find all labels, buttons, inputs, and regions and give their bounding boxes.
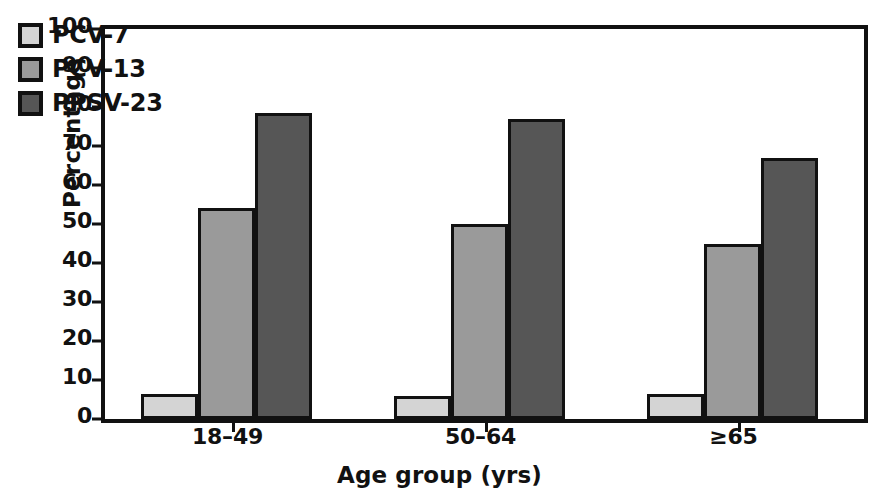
y-axis-tick-mark: [92, 379, 105, 382]
y-axis-tick-mark: [92, 223, 105, 226]
x-axis-title: Age group (yrs): [0, 462, 879, 488]
bar: [394, 396, 451, 419]
legend-label: PPSV-23: [52, 91, 163, 115]
bar: [704, 244, 761, 420]
y-axis-tick-label: 10: [38, 364, 92, 389]
y-axis-tick-label: 50: [38, 208, 92, 233]
y-axis-tick-mark: [92, 184, 105, 187]
x-axis-tick-label: 18–49: [192, 424, 263, 449]
y-axis-tick-label: 20: [38, 325, 92, 350]
y-axis-tick-label: 70: [38, 130, 92, 155]
bar: [451, 224, 508, 419]
plot-inner: [105, 29, 864, 419]
bar: [761, 158, 818, 419]
y-axis-tick-label: 30: [38, 286, 92, 311]
legend-swatch-icon: [18, 91, 43, 116]
x-axis-tick-label: 50–64: [445, 424, 516, 449]
y-axis-tick-label: 40: [38, 247, 92, 272]
y-axis-tick-mark: [92, 262, 105, 265]
y-axis-tick-mark: [92, 418, 105, 421]
bar: [198, 208, 255, 419]
y-axis-tick-mark: [92, 340, 105, 343]
bar: [508, 119, 565, 419]
bar: [255, 113, 312, 419]
bar-chart-figure: Percentage 0102030405060708090100 18–495…: [0, 0, 879, 501]
y-axis-tick-label: 60: [38, 169, 92, 194]
legend-item: PCV-13: [18, 52, 163, 86]
x-axis-tick-label: ≥65: [709, 424, 757, 449]
legend: PCV-7PCV-13PPSV-23: [18, 18, 163, 120]
legend-swatch-icon: [18, 23, 43, 48]
y-axis-tick-mark: [92, 301, 105, 304]
y-axis-tick-mark: [92, 145, 105, 148]
bar: [141, 394, 198, 419]
y-axis-tick-label: 0: [38, 403, 92, 428]
bar: [647, 394, 704, 419]
legend-swatch-icon: [18, 57, 43, 82]
legend-item: PCV-7: [18, 18, 163, 52]
legend-label: PCV-13: [52, 57, 146, 81]
legend-item: PPSV-23: [18, 86, 163, 120]
plot-area: [101, 25, 868, 423]
legend-label: PCV-7: [52, 23, 129, 47]
